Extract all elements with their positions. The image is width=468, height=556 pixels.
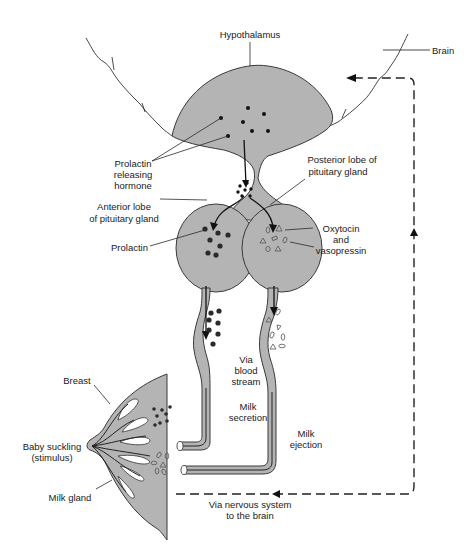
label-anterior-1: Anterior lobe: [97, 201, 151, 212]
anterior-leader: [160, 199, 207, 200]
label-ejection-1: Milk: [298, 428, 315, 439]
label-milk-gland: Milk gland: [49, 492, 92, 503]
label-anterior-2: of pituitary gland: [89, 213, 159, 224]
posterior-lobe: [242, 204, 322, 292]
prolactin-oxytocin-diagram: Hypothalamus Brain Prolactin releasing h…: [0, 0, 468, 556]
label-oxytocin-1: Oxytocin: [323, 223, 360, 234]
label-brain: Brain: [432, 45, 454, 56]
label-posterior-1: Posterior lobe of: [307, 154, 377, 165]
posterior-leader: [270, 179, 305, 205]
label-blood-3: stream: [231, 376, 260, 387]
nervous-arrowhead-bottom: [272, 490, 280, 498]
nervous-arrowhead-right: [410, 228, 418, 236]
label-prh-3: hormone: [114, 180, 152, 191]
label-blood-2: blood: [234, 365, 257, 376]
label-nervous-2: to the brain: [226, 510, 274, 521]
label-oxytocin-2: and: [333, 234, 349, 245]
milk-gland-leader: [96, 480, 112, 489]
label-prh-2: releasing: [114, 169, 153, 180]
label-suckling-2: (stimulus): [31, 452, 72, 463]
label-suckling-1: Baby suckling: [23, 441, 82, 452]
label-prh-1: Prolactin: [115, 158, 152, 169]
nervous-arrowhead-top: [346, 74, 356, 82]
label-hypothalamus: Hypothalamus: [220, 29, 281, 40]
label-posterior-2: pituitary gland: [308, 166, 367, 177]
label-nervous-1: Via nervous system: [209, 499, 292, 510]
label-secretion-1: Milk: [240, 401, 257, 412]
label-ejection-2: ejection: [290, 439, 323, 450]
hypothalamus-shape: [172, 65, 333, 226]
label-blood-1: Via: [239, 354, 253, 365]
label-oxytocin-3: vasopressin: [316, 245, 367, 256]
brain-nerve-left: [86, 38, 172, 136]
label-prolactin: Prolactin: [111, 242, 148, 253]
label-secretion-2: secretion: [229, 412, 268, 423]
breast-leader: [94, 385, 110, 404]
label-breast: Breast: [63, 375, 91, 386]
vessel-prolactin-dots: [206, 308, 221, 346]
